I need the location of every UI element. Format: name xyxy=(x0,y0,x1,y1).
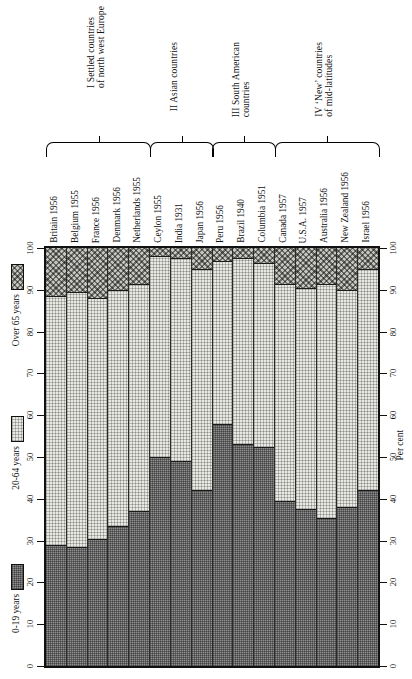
category-label-text: Belgium 1955 xyxy=(71,190,81,243)
bar-ceylon-1955 xyxy=(150,248,171,666)
bar-new-zealand-1956 xyxy=(337,248,358,666)
y-tick-left-90 xyxy=(37,290,44,291)
category-label-peru-1956: Peru 1956 xyxy=(216,205,226,243)
y-tick-label-left-90: 90 xyxy=(26,286,35,295)
segment-20-64 xyxy=(88,298,108,538)
y-tick-label-left-0: 0 xyxy=(26,664,35,668)
segment-0-19 xyxy=(358,490,378,666)
y-tick-label-text: 100 xyxy=(26,242,35,255)
y-tick-label-text: 20 xyxy=(26,578,35,587)
bar-brazil-1940 xyxy=(233,248,254,666)
y-tick-label-text: 80 xyxy=(26,327,35,336)
category-label-ceylon-1955: Ceylon 1955 xyxy=(154,195,164,243)
y-tick-label-text: 80 xyxy=(389,327,398,336)
y-tick-label-left-100: 100 xyxy=(26,242,35,255)
segment-0-19 xyxy=(171,461,191,666)
segment-over-65 xyxy=(46,248,66,296)
group-caption-ii: II Asian countries xyxy=(170,42,180,140)
segment-20-64 xyxy=(296,288,316,510)
y-tick-label-right-60: 60 xyxy=(389,411,398,420)
group-caption-text: III South Americancountries xyxy=(232,42,252,117)
y-tick-label-text: 20 xyxy=(389,578,398,587)
y-tick-left-70 xyxy=(37,373,44,374)
category-label-india-1931: India 1931 xyxy=(175,203,185,243)
group-caption-iii: III South Americancountries xyxy=(232,42,252,140)
segment-20-64 xyxy=(254,263,274,447)
category-label-text: Israel 1956 xyxy=(362,201,372,243)
segment-over-65 xyxy=(213,248,233,261)
group-brace-row xyxy=(40,140,385,162)
brace-group-iii xyxy=(212,142,275,157)
y-tick-right-20 xyxy=(380,582,387,583)
category-label-text: Australia 1956 xyxy=(320,188,330,243)
category-label-text: Ceylon 1955 xyxy=(154,195,164,243)
segment-over-65 xyxy=(129,248,149,284)
segment-0-19 xyxy=(296,509,316,666)
y-axis-title-text: Per cent xyxy=(396,430,406,460)
y-tick-label-text: 70 xyxy=(26,369,35,378)
y-tick-label-text: 40 xyxy=(26,495,35,504)
segment-over-65 xyxy=(275,248,295,284)
category-label-text: India 1931 xyxy=(175,203,185,243)
y-tick-label-left-80: 80 xyxy=(26,327,35,336)
segment-over-65 xyxy=(296,248,316,288)
segment-0-19 xyxy=(192,490,212,666)
y-tick-right-10 xyxy=(380,624,387,625)
group-caption-i: I Settled countriesof north west Europe xyxy=(87,6,107,140)
category-label-text: Peru 1956 xyxy=(216,205,226,243)
y-tick-right-50 xyxy=(380,457,387,458)
group-caption-line-2: of mid-latitudes xyxy=(325,42,335,117)
bar-u-s-a-1957 xyxy=(296,248,317,666)
segment-0-19 xyxy=(254,447,274,666)
category-label-brazil-1940: Brazil 1940 xyxy=(237,199,247,243)
segment-20-64 xyxy=(317,284,337,518)
segment-0-19 xyxy=(233,444,253,666)
y-tick-label-right-0: 0 xyxy=(389,664,398,668)
segment-over-65 xyxy=(192,248,212,269)
bar-belgium-1955 xyxy=(67,248,88,666)
y-tick-left-40 xyxy=(37,499,44,500)
bar-canada-1957 xyxy=(275,248,296,666)
segment-0-19 xyxy=(150,457,170,666)
y-tick-right-90 xyxy=(380,290,387,291)
category-label-denmark-1956: Denmark 1956 xyxy=(113,187,123,243)
brace-group-ii xyxy=(150,142,213,157)
y-tick-label-right-20: 20 xyxy=(389,578,398,587)
y-tick-right-80 xyxy=(380,332,387,333)
category-label-australia-1956: Australia 1956 xyxy=(320,188,330,243)
segment-20-64 xyxy=(233,258,253,444)
y-tick-left-20 xyxy=(37,582,44,583)
y-tick-label-text: 50 xyxy=(26,453,35,462)
segment-0-19 xyxy=(46,545,66,666)
y-tick-label-text: 10 xyxy=(389,620,398,629)
group-caption-line-1: II Asian countries xyxy=(170,42,180,111)
segment-over-65 xyxy=(150,248,170,256)
segment-0-19 xyxy=(317,518,337,666)
category-label-text: Japan 1956 xyxy=(196,201,206,243)
y-tick-label-left-20: 20 xyxy=(26,578,35,587)
category-label-text: Denmark 1956 xyxy=(113,187,123,243)
category-label-columbia-1951: Columbia 1951 xyxy=(258,185,268,243)
y-tick-left-80 xyxy=(37,332,44,333)
segment-0-19 xyxy=(67,547,87,666)
y-tick-label-right-80: 80 xyxy=(389,327,398,336)
brace-group-i xyxy=(46,142,151,157)
y-tick-right-100 xyxy=(380,248,387,249)
y-tick-label-left-30: 30 xyxy=(26,536,35,545)
bar-netherlands-1955 xyxy=(129,248,150,666)
segment-20-64 xyxy=(337,290,357,507)
y-tick-left-0 xyxy=(37,666,44,667)
category-label-france-1956: France 1956 xyxy=(92,197,102,243)
segment-over-65 xyxy=(67,248,87,292)
y-tick-label-text: 100 xyxy=(389,242,398,255)
y-tick-label-text: 0 xyxy=(389,664,398,668)
group-captions: I Settled countriesof north west EuropeI… xyxy=(0,0,412,140)
y-tick-label-right-90: 90 xyxy=(389,286,398,295)
category-label-netherlands-1955: Netherlands 1955 xyxy=(133,177,143,243)
segment-0-19 xyxy=(108,526,128,666)
y-tick-label-text: 10 xyxy=(26,620,35,629)
category-label-text: Canada 1957 xyxy=(279,194,289,243)
bar-columbia-1951 xyxy=(254,248,275,666)
plot-area xyxy=(44,246,380,668)
segment-0-19 xyxy=(337,507,357,666)
